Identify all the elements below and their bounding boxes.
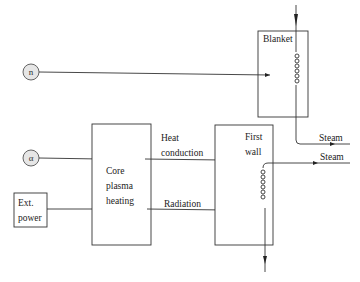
core-plasma-heating-block: Core plasma heating [92, 124, 151, 245]
first-wall-label-1: First [245, 132, 263, 142]
neutron-symbol: n [29, 67, 34, 77]
heat-conduction-label-2: conduction [161, 148, 203, 158]
alpha-flow-arrow [39, 158, 100, 159]
blanket-block: Blanket [258, 31, 308, 117]
core-label-2: plasma [106, 181, 134, 191]
steam-output-first-wall: Steam [320, 152, 344, 162]
alpha-source: α [23, 150, 39, 166]
heat-conduction-arrow [145, 159, 222, 160]
radiation-arrow [147, 209, 225, 210]
radiation-label: Radiation [164, 199, 201, 209]
heat-conduction-label-1: Heat [161, 133, 179, 143]
core-label-3: heating [106, 196, 134, 206]
alpha-symbol: α [29, 153, 34, 163]
steam-output-blanket: Steam [319, 133, 343, 143]
fusion-energy-flow-diagram: Blanket Steam n α Ext. power [0, 0, 360, 282]
external-power-source: Ext. power [14, 193, 47, 227]
first-wall-coolant-pipe [261, 163, 350, 272]
first-wall-label-2: wall [245, 147, 262, 157]
ext-power-label-1: Ext. [18, 198, 34, 208]
blanket-label: Blanket [263, 34, 293, 44]
neutron-source: n [23, 64, 39, 80]
core-label-1: Core [106, 166, 124, 176]
ext-power-label-2: power [18, 213, 43, 223]
neutron-flow-arrow [39, 72, 270, 75]
